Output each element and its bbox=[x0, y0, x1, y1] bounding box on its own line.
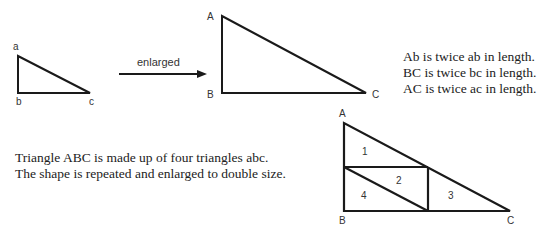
small-triangle-shape bbox=[18, 56, 90, 93]
relation-ac: AC is twice ac in length. bbox=[403, 81, 536, 96]
relation-bc: BC is twice bc in length. bbox=[403, 65, 536, 80]
description-line-2: The shape is repeated and enlarged to do… bbox=[15, 166, 286, 181]
enlarged-arrow: enlarged bbox=[119, 56, 207, 78]
label-c: c bbox=[89, 96, 94, 107]
composite-label-A: A bbox=[339, 108, 346, 119]
label-B: B bbox=[207, 89, 214, 100]
description-text: Triangle ABC is made up of four triangle… bbox=[15, 150, 286, 181]
composite-triangle: A B C 1 2 3 4 bbox=[339, 108, 514, 226]
length-relations-text: Ab is twice ab in length. BC is twice bc… bbox=[403, 49, 536, 96]
description-line-1: Triangle ABC is made up of four triangle… bbox=[15, 150, 268, 165]
small-triangle: a b c bbox=[13, 41, 94, 107]
region-4-label: 4 bbox=[361, 190, 367, 201]
label-b: b bbox=[16, 96, 22, 107]
composite-label-C: C bbox=[507, 215, 514, 226]
composite-label-B: B bbox=[339, 215, 346, 226]
region-2-label: 2 bbox=[396, 175, 402, 186]
arrow-label: enlarged bbox=[137, 56, 180, 68]
diagram-canvas: a b c enlarged A B C Ab is twice ab in l… bbox=[0, 0, 549, 231]
region-3-label: 3 bbox=[448, 190, 454, 201]
label-a: a bbox=[13, 41, 19, 52]
label-A: A bbox=[207, 11, 214, 22]
large-triangle-shape bbox=[222, 16, 366, 93]
relation-ab: Ab is twice ab in length. bbox=[403, 49, 535, 64]
arrow-head-icon bbox=[197, 70, 207, 78]
label-C: C bbox=[372, 89, 379, 100]
region-1-label: 1 bbox=[362, 146, 368, 157]
inner-diagonal-line bbox=[344, 167, 428, 211]
large-triangle: A B C bbox=[207, 11, 379, 100]
